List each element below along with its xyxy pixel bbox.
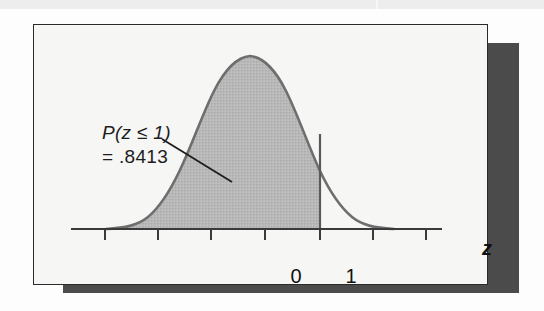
x-axis-label: z [482,237,492,260]
probability-expression: P(z ≤ 1) [102,121,171,145]
x-axis-ticks [105,229,426,240]
probability-value: = .8413 [102,145,171,169]
x-tick-label-1: 1 [338,265,364,288]
figure-frame: P(z ≤ 1) = .8413 0 1 z [33,24,488,285]
page-top-band-seam [376,0,378,9]
probability-annotation: P(z ≤ 1) = .8413 [102,121,171,170]
page-top-band [0,0,544,9]
x-tick-label-0: 0 [283,265,309,288]
